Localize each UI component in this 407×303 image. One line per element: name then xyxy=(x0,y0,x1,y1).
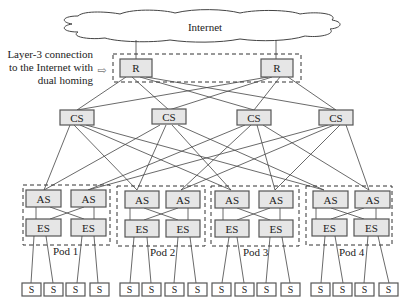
server: S xyxy=(333,283,352,296)
svg-text:AS: AS xyxy=(81,193,95,205)
svg-text:S: S xyxy=(51,284,57,295)
aggregation-switch: AS xyxy=(166,191,200,208)
server: S xyxy=(355,283,374,296)
core-aggregation-links xyxy=(44,125,369,190)
server: S xyxy=(379,283,398,296)
svg-text:S: S xyxy=(386,284,392,295)
pod-1: AS AS ES ES Pod 1 S S S S xyxy=(22,185,110,296)
server: S xyxy=(22,283,41,296)
pod-label: Pod 4 xyxy=(339,246,365,258)
svg-text:S: S xyxy=(127,284,133,295)
svg-text:R: R xyxy=(273,62,281,74)
edge-switch: ES xyxy=(71,219,106,236)
svg-text:CS: CS xyxy=(70,112,83,124)
svg-text:S: S xyxy=(97,284,103,295)
pod-label: Pod 1 xyxy=(53,245,78,257)
svg-text:CS: CS xyxy=(247,112,260,124)
svg-text:AS: AS xyxy=(323,194,337,206)
svg-text:S: S xyxy=(195,284,201,295)
edge-switch: ES xyxy=(125,220,159,237)
server: S xyxy=(44,283,63,296)
svg-text:S: S xyxy=(318,284,324,295)
aggregation-switch: AS xyxy=(215,191,249,208)
aggregation-switch: AS xyxy=(259,191,293,208)
server: S xyxy=(257,283,276,296)
svg-text:ES: ES xyxy=(136,223,149,235)
pod-2: AS AS ES ES Pod 2 S S S S xyxy=(117,186,207,296)
server: S xyxy=(66,283,85,296)
svg-text:S: S xyxy=(340,284,346,295)
svg-text:S: S xyxy=(29,284,35,295)
svg-text:S: S xyxy=(172,284,178,295)
edge-switch: ES xyxy=(26,219,61,236)
core-switch-4: CS xyxy=(319,110,353,125)
svg-text:AS: AS xyxy=(176,194,190,206)
server: S xyxy=(235,283,254,296)
svg-text:S: S xyxy=(288,284,294,295)
annotation-line: to the Internet with xyxy=(2,61,93,74)
edge-switch: ES xyxy=(215,220,249,237)
edge-switch: ES xyxy=(259,220,293,237)
pod-4: AS AS ES ES Pod 4 S S S S xyxy=(306,186,398,296)
internet-cloud: Internet xyxy=(64,10,340,43)
annotation-line: dual homing xyxy=(2,74,93,87)
aggregation-switch: AS xyxy=(313,191,348,208)
router-r2: R xyxy=(261,59,293,77)
svg-text:ES: ES xyxy=(270,223,283,235)
core-switch-2: CS xyxy=(152,109,186,124)
svg-text:ES: ES xyxy=(365,222,378,234)
svg-text:ES: ES xyxy=(226,223,239,235)
server: S xyxy=(212,283,231,296)
server: S xyxy=(311,283,330,296)
server: S xyxy=(142,283,161,296)
aggregation-switch: AS xyxy=(125,191,159,208)
router-r1: R xyxy=(120,59,152,77)
svg-text:S: S xyxy=(362,284,368,295)
svg-text:ES: ES xyxy=(177,223,190,235)
svg-text:S: S xyxy=(264,284,270,295)
pod-label: Pod 3 xyxy=(243,246,269,258)
svg-text:AS: AS xyxy=(269,194,283,206)
svg-text:S: S xyxy=(219,284,225,295)
svg-text:S: S xyxy=(242,284,248,295)
internet-label: Internet xyxy=(188,21,222,33)
core-switch-3: CS xyxy=(237,110,271,125)
svg-text:S: S xyxy=(149,284,155,295)
svg-text:ES: ES xyxy=(37,222,50,234)
aggregation-switch: AS xyxy=(355,191,390,208)
pod-3: AS AS ES ES Pod 3 S S S S xyxy=(211,186,300,296)
svg-text:AS: AS xyxy=(36,193,50,205)
svg-text:ES: ES xyxy=(82,222,95,234)
svg-text:R: R xyxy=(132,62,140,74)
edge-switch: ES xyxy=(312,219,347,236)
svg-text:AS: AS xyxy=(225,194,239,206)
edge-switch: ES xyxy=(354,219,389,236)
svg-text:CS: CS xyxy=(329,112,342,124)
annotation-line: Layer-3 connection xyxy=(2,48,93,61)
dual-homing-annotation: Layer-3 connection to the Internet with … xyxy=(2,48,93,87)
server: S xyxy=(165,283,184,296)
svg-text:ES: ES xyxy=(323,222,336,234)
svg-text:AS: AS xyxy=(135,194,149,206)
svg-text:AS: AS xyxy=(365,194,379,206)
aggregation-switch: AS xyxy=(71,190,106,207)
aggregation-switch: AS xyxy=(26,190,61,207)
right-arrow-icon: ⇨ xyxy=(97,64,106,77)
server: S xyxy=(120,283,139,296)
server: S xyxy=(90,283,109,296)
network-topology-diagram: Internet R xyxy=(0,0,407,303)
pod-label: Pod 2 xyxy=(150,246,175,258)
server: S xyxy=(188,283,207,296)
svg-text:CS: CS xyxy=(162,111,175,123)
server: S xyxy=(281,283,300,296)
core-switch-1: CS xyxy=(60,110,94,125)
svg-text:S: S xyxy=(73,284,79,295)
edge-switch: ES xyxy=(166,220,200,237)
